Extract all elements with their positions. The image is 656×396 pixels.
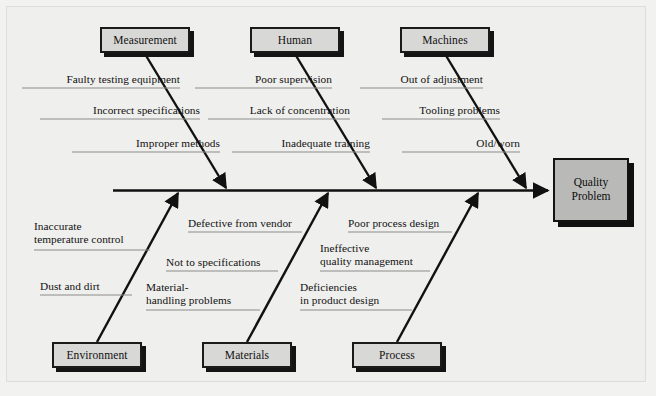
cause-label-process-3: Deficiencies in product design bbox=[300, 281, 450, 307]
category-box-machines[interactable]: Machines bbox=[400, 27, 490, 53]
cause-label-measurement-2: Incorrect specifications bbox=[40, 104, 200, 117]
cause-label-process-2: Ineffective quality management bbox=[320, 242, 470, 268]
cause-label-machines-1: Out of adjustment bbox=[360, 73, 483, 86]
cause-label-process-1: Poor process design bbox=[348, 217, 488, 230]
category-label-machines: Machines bbox=[422, 34, 468, 46]
effect-box-quality-problem[interactable]: Quality Problem bbox=[553, 158, 629, 222]
cause-label-environment-2: Dust and dirt bbox=[40, 280, 160, 293]
category-label-human: Human bbox=[278, 34, 312, 46]
cause-label-human-3: Inadequate training bbox=[232, 137, 370, 150]
category-label-materials: Materials bbox=[225, 349, 269, 361]
cause-label-machines-3: Old/worn bbox=[402, 137, 520, 150]
category-box-measurement[interactable]: Measurement bbox=[100, 27, 190, 53]
effect-label-line2: Problem bbox=[572, 190, 611, 204]
category-box-environment[interactable]: Environment bbox=[52, 342, 142, 368]
cause-label-human-2: Lack of concentration bbox=[208, 104, 350, 117]
cause-label-materials-1: Defective from vendor bbox=[188, 217, 328, 230]
effect-label-line1: Quality bbox=[574, 176, 609, 190]
cause-label-environment-1: Inaccurate temperature control bbox=[34, 220, 194, 246]
category-box-process[interactable]: Process bbox=[352, 342, 442, 368]
category-label-measurement: Measurement bbox=[113, 34, 177, 46]
category-label-environment: Environment bbox=[66, 349, 127, 361]
cause-label-measurement-1: Faulty testing equipment bbox=[22, 73, 180, 86]
cause-label-measurement-3: Improper methods bbox=[72, 137, 220, 150]
cause-label-materials-2: Not to specifications bbox=[166, 256, 306, 269]
cause-label-human-1: Poor supervision bbox=[195, 73, 332, 86]
category-label-process: Process bbox=[379, 349, 415, 361]
cause-label-machines-2: Tooling problems bbox=[382, 104, 500, 117]
fishbone-diagram-canvas: Measurement Human Machines Environment M… bbox=[0, 0, 656, 396]
category-box-human[interactable]: Human bbox=[250, 27, 340, 53]
category-box-materials[interactable]: Materials bbox=[202, 342, 292, 368]
cause-label-materials-3: Material- handling problems bbox=[146, 281, 286, 307]
